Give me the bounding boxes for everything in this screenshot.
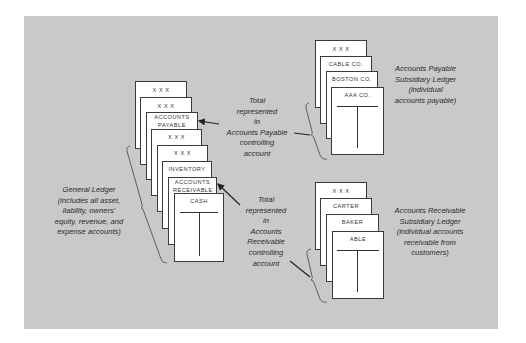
connectors bbox=[0, 0, 526, 343]
caption-line: liability, owners' bbox=[45, 206, 133, 217]
ap-connector-line bbox=[294, 133, 310, 135]
ar-subsidiary-brace bbox=[307, 249, 327, 302]
note-line: represented bbox=[218, 107, 296, 118]
caption-line: Accounts Payable bbox=[388, 64, 463, 75]
note-line: Accounts bbox=[235, 227, 297, 238]
note-line: in bbox=[218, 117, 296, 128]
ap-arrow bbox=[199, 121, 219, 124]
caption-line: Subsidiary Ledger bbox=[385, 217, 475, 228]
caption-line: General Ledger bbox=[45, 185, 133, 196]
ap-control-note: Total represented in Accounts Payable co… bbox=[218, 96, 296, 160]
note-line: represented bbox=[235, 206, 297, 217]
note-line: account bbox=[235, 259, 297, 270]
ar-control-note: Total represented in Accounts Receivable… bbox=[235, 195, 297, 269]
ap-subsidiary-caption: Accounts Payable Subsidiary Ledger (indi… bbox=[388, 64, 463, 106]
note-line: Total bbox=[235, 195, 297, 206]
caption-line: equity, revenue, and bbox=[45, 217, 133, 228]
general-ledger-caption: General Ledger (includes all asset, liab… bbox=[45, 185, 133, 238]
note-line: Receivable bbox=[235, 237, 297, 248]
note-line: controlling bbox=[218, 138, 296, 149]
ap-subsidiary-brace bbox=[306, 103, 327, 159]
note-line: account bbox=[218, 149, 296, 160]
caption-line: accounts payable) bbox=[388, 96, 463, 107]
caption-line: Subsidiary Ledger bbox=[388, 75, 463, 86]
caption-line: (individual accounts bbox=[385, 227, 475, 238]
note-line: Total bbox=[218, 96, 296, 107]
note-line: Accounts Payable bbox=[218, 128, 296, 139]
caption-line: expense accounts) bbox=[45, 227, 133, 238]
note-line: in bbox=[235, 216, 297, 227]
caption-line: customers) bbox=[385, 248, 475, 259]
caption-line: (individual bbox=[388, 85, 463, 96]
caption-line: (includes all asset, bbox=[45, 196, 133, 207]
caption-line: receivable from bbox=[385, 238, 475, 249]
caption-line: Accounts Receivable bbox=[385, 206, 475, 217]
ar-subsidiary-caption: Accounts Receivable Subsidiary Ledger (i… bbox=[385, 206, 475, 259]
note-line: controlling bbox=[235, 248, 297, 259]
